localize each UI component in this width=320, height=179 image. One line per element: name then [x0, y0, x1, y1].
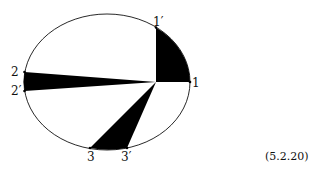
sector-1-1prime [156, 28, 190, 83]
point-3prime [126, 147, 129, 150]
sector-3-3prime [90, 82, 156, 150]
equation-number: (5.2.20) [265, 150, 309, 163]
label-2: 2 [11, 65, 19, 79]
label-1: 1 [192, 76, 200, 90]
point-3 [89, 147, 92, 150]
sector-2-2prime [24, 72, 156, 91]
point-1 [189, 81, 192, 84]
point-2prime [23, 90, 26, 93]
ellipse-sector-diagram: 1′ 1 2 2′ 3 3′ (5.2.20) [0, 0, 320, 179]
label-3prime: 3′ [121, 150, 132, 164]
label-1prime: 1′ [153, 15, 164, 29]
label-3: 3 [87, 150, 95, 164]
label-2prime: 2′ [11, 84, 22, 98]
point-2 [23, 71, 26, 74]
